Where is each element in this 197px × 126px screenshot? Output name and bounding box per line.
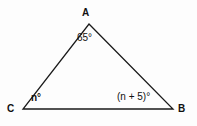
angle-label-c: n°: [31, 93, 41, 103]
vertex-label-b: B: [178, 104, 185, 114]
angle-label-b: (n + 5)°: [117, 92, 150, 102]
triangle-figure: A C B 65° n° (n + 5)°: [0, 0, 197, 126]
vertex-label-a: A: [82, 8, 89, 18]
angle-label-a: 65°: [77, 33, 92, 43]
triangle-shape: [23, 24, 173, 109]
vertex-label-c: C: [7, 104, 14, 114]
triangle-outline: [0, 0, 197, 126]
